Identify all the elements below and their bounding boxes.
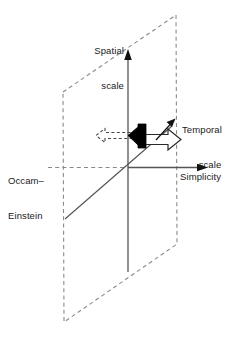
label-occam-einstein-line2: Einstein bbox=[8, 210, 64, 222]
label-temporal-scale-line1: Temporal bbox=[182, 124, 238, 136]
label-temporal-scale-line2: scale bbox=[182, 159, 238, 171]
label-occam-einstein: Occam– Einstein bbox=[8, 152, 64, 244]
label-spatial-scale-line2: scale bbox=[72, 80, 124, 92]
label-spatial-scale-line1: Spatial bbox=[72, 45, 124, 57]
label-simplicity: Simplicity bbox=[180, 171, 238, 183]
spatial-scale-arrowhead bbox=[124, 49, 132, 60]
label-occam-einstein-line1: Occam– bbox=[8, 175, 64, 187]
black-block-arrow bbox=[128, 124, 146, 148]
label-spatial-scale: Spatial scale bbox=[72, 22, 124, 114]
diagram-canvas: Spatial scale Temporal scale Occam– Eins… bbox=[0, 0, 238, 339]
